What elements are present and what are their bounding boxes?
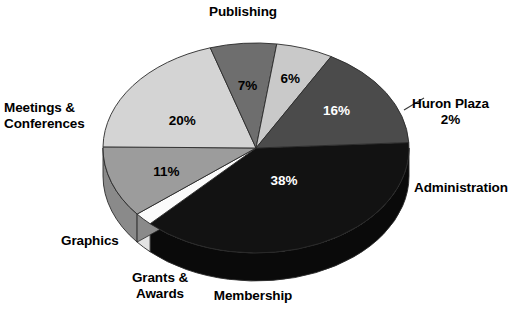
slice-label-administration: Administration bbox=[414, 180, 508, 196]
slice-label-huron-plaza: Huron Plaza 2% bbox=[412, 96, 489, 128]
pie-percent-administration: 11% bbox=[153, 164, 179, 179]
slice-label-publishing: Publishing bbox=[209, 4, 277, 20]
pie-chart-svg: 38%11%20%7%6%16% bbox=[0, 0, 509, 315]
slice-label-membership: Membership bbox=[214, 288, 293, 304]
slice-label-graphics: Graphics bbox=[61, 233, 119, 249]
pie-percent-grants-awards: 7% bbox=[238, 78, 258, 93]
pie-percent-membership: 20% bbox=[169, 113, 196, 128]
pie-percent-publishing: 38% bbox=[270, 173, 297, 188]
pie-slices bbox=[103, 43, 409, 253]
pie-percent-meetings-conferences: 16% bbox=[323, 103, 350, 118]
pie-chart-figure: 38%11%20%7%6%16% Publishing Huron Plaza … bbox=[0, 0, 509, 315]
slice-label-grants-awards: Grants & Awards bbox=[132, 270, 188, 302]
slice-label-meetings-conferences: Meetings & Conferences bbox=[4, 100, 85, 132]
pie-percent-graphics: 6% bbox=[280, 71, 300, 86]
